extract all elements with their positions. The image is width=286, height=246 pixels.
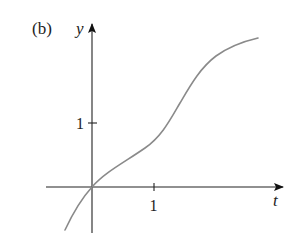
panel-label: (b) — [32, 19, 52, 38]
y-axis-label: y — [74, 19, 84, 38]
data-curve — [65, 38, 258, 230]
x-tick-label-1: 1 — [150, 197, 158, 214]
x-axis: 1 t — [46, 183, 283, 214]
y-tick-label-1: 1 — [76, 115, 84, 132]
chart: 1 t 1 y (b) — [0, 0, 286, 246]
y-axis: 1 y — [74, 19, 97, 233]
x-axis-label: t — [273, 191, 279, 210]
